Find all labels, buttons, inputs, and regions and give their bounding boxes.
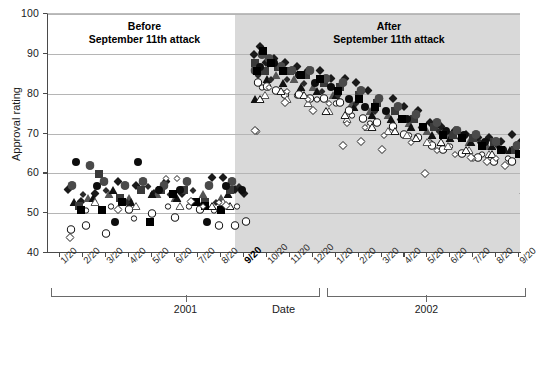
data-point-pew [266,77,273,95]
data-point-newsweek [398,109,406,127]
data-point-newsweek [98,200,106,218]
data-point-gallup [86,156,95,174]
year-bracket [327,288,527,297]
data-point-newsweek [259,41,267,59]
y-axis-tick-label: 100 [5,7,39,19]
data-point-pew [199,196,206,214]
data-point-newsweek [146,212,154,230]
data-point-pew [162,168,169,186]
legend: Key: [0,330,537,388]
data-point-amresgp [519,184,520,202]
data-point-amresgp [356,132,365,150]
after-attack-caption-line2: September 11th attack [333,33,444,46]
data-point-amresgp [421,164,430,182]
data-point-newsweek [355,89,363,107]
y-axis: 405060708090100 [0,0,47,265]
data-point-amresgp [501,156,510,174]
data-point-amresgp [466,148,475,166]
year-label: 2002 [415,303,438,315]
data-point-newsweek [253,61,261,79]
data-point-pew [344,113,351,131]
year-label: 2001 [174,303,197,315]
before-attack-caption: Before September 11th attack [89,20,200,46]
data-point-gallup [205,176,214,194]
data-point-newsweek [297,65,305,83]
data-point-pew [451,144,458,162]
data-point-amresgp [281,93,290,111]
data-point-amresgp [65,228,74,246]
data-point-newsweek [371,97,379,115]
data-point-zogby [81,216,90,234]
data-point-newsweek [169,184,177,202]
data-point-newsweek [419,117,427,135]
data-point-amresgp [308,101,317,119]
data-point-amresgp [251,121,260,139]
data-point-nbc-wsj [368,117,377,135]
data-point-newsweek [279,61,287,79]
gridline [48,14,520,15]
y-axis-tick-label: 40 [5,246,39,258]
data-point-gallup [67,176,76,194]
before-attack-caption-line2: September 11th attack [89,33,200,46]
data-point-harris [134,152,142,170]
data-point-gallup [138,172,147,190]
data-point-amresgp [221,196,230,214]
x-axis-tick-label: 9/20 [517,245,537,266]
data-point-newsweek [334,81,342,99]
data-point-pew [325,93,332,111]
data-point-zogby [214,216,223,234]
data-point-pew [174,168,181,186]
data-point-amresgp [338,136,347,154]
data-point-ipsos-reid [423,132,432,150]
data-point-nbc-wsj [255,89,264,107]
data-point-newsweek [439,125,447,143]
data-point-ipsos-reid [132,196,141,214]
data-point-amresgp [377,140,386,158]
data-point-harris [72,152,80,170]
data-point-amresgp [187,192,196,210]
data-point-newsweek [458,128,466,146]
data-point-newsweek [515,144,520,162]
before-attack-caption-line1: Before [89,20,200,33]
data-point-newsweek [316,69,324,87]
after-attack-caption-line1: After [333,20,444,33]
data-point-amresgp [483,152,492,170]
data-point-newsweek [267,53,275,71]
data-point-pew [493,148,500,166]
x-axis-title: Date [272,303,295,315]
data-point-pew [408,132,415,150]
data-point-amresgp [113,200,122,218]
data-point-pew [433,140,440,158]
data-point-newsweek [77,200,85,218]
after-attack-caption: After September 11th attack [333,20,444,46]
data-point-zogby [102,224,111,242]
plot-area [47,13,520,252]
data-point-zogby [242,212,251,230]
year-bracket [51,288,319,297]
y-axis-title: Approval rating [10,24,22,224]
data-point-zogby [230,216,239,234]
